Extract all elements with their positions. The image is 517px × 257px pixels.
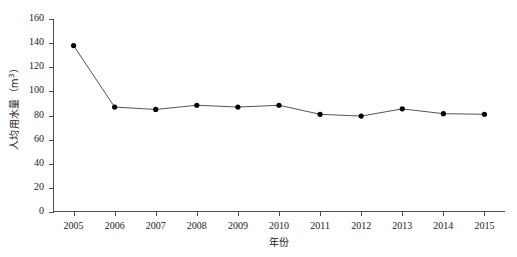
x-tick-label: 2006 [105, 220, 125, 231]
x-tick-label: 2011 [310, 220, 330, 231]
y-axis-title-text: 人均用水量（m3） [6, 63, 21, 150]
x-tick-label: 2007 [146, 220, 166, 231]
x-tick-label: 2009 [228, 220, 248, 231]
x-tick-label: 2005 [64, 220, 84, 231]
y-tick-label: 120 [29, 60, 44, 71]
series-markers [71, 43, 487, 119]
y-tick-label: 80 [34, 109, 44, 120]
y-tick-label: 0 [39, 205, 44, 216]
x-tick-label: 2014 [433, 220, 453, 231]
data-point [153, 107, 158, 112]
y-tick-label: 20 [34, 181, 44, 192]
y-tick-label: 140 [29, 36, 44, 47]
data-point [276, 103, 281, 108]
y-tick [49, 212, 54, 213]
y-axis-title-superscript: 3 [7, 73, 15, 78]
x-tick-label: 2008 [187, 220, 207, 231]
data-series [53, 19, 505, 212]
y-axis-title: 人均用水量（m3） [0, 0, 26, 212]
data-point [441, 111, 446, 116]
x-tick-label: 2012 [351, 220, 371, 231]
data-point [235, 104, 240, 109]
y-tick-label: 40 [34, 157, 44, 168]
y-tick-label: 60 [34, 133, 44, 144]
y-axis-title-main: 人均用水量（m [9, 78, 20, 150]
x-tick-label: 2015 [474, 220, 494, 231]
plot-area: 020406080100120140160 200520062007200820… [53, 19, 505, 212]
x-tick-label: 2010 [269, 220, 289, 231]
y-tick-label: 160 [29, 12, 44, 23]
x-axis-title: 年份 [53, 234, 505, 249]
y-tick-label: 100 [29, 84, 44, 95]
x-tick-label: 2013 [392, 220, 412, 231]
data-point [194, 103, 199, 108]
data-point [359, 114, 364, 119]
data-point [112, 104, 117, 109]
data-point [400, 106, 405, 111]
data-point [317, 112, 322, 117]
chart-figure: 人均用水量（m3） 020406080100120140160 20052006… [0, 0, 517, 257]
data-point [482, 112, 487, 117]
y-axis-title-tail: ） [9, 63, 20, 73]
data-point [71, 43, 76, 48]
